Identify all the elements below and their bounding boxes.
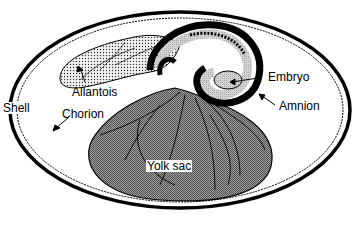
inner-curl — [160, 59, 175, 75]
label-embryo: Embryo — [268, 71, 309, 83]
label-allantois: Allantois — [72, 86, 117, 98]
embryo-head — [214, 71, 242, 89]
label-shell: Shell — [2, 102, 31, 114]
yolk-sac — [89, 88, 272, 201]
label-amnion: Amnion — [279, 100, 320, 112]
label-yolk-sac: Yolk sac — [146, 160, 192, 172]
label-chorion: Chorion — [62, 108, 104, 120]
